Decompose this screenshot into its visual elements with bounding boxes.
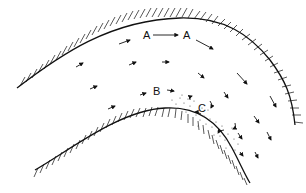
eddy-arrows	[190, 96, 236, 133]
label-c: C	[198, 102, 206, 114]
outer-bank	[17, 8, 303, 125]
label-a1: A	[143, 29, 151, 41]
label-b: B	[153, 85, 160, 97]
flow-arrows	[76, 35, 276, 158]
label-a2: A	[183, 29, 191, 41]
meander-diagram: A A B C	[0, 0, 306, 193]
inner-bank	[34, 107, 250, 185]
